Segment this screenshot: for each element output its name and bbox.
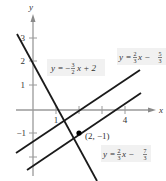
coordinate-graph: y x 3 2 1 −1 1 4 (2, −1) y = − 3 2 — [0, 0, 166, 181]
svg-text:2: 2 — [72, 69, 75, 75]
intersection-point — [76, 130, 81, 135]
svg-text:x −: x − — [121, 149, 134, 159]
equation-label-3: y = 2 3 x − 7 3 — [101, 145, 151, 162]
y-axis: y — [28, 2, 36, 176]
x-axis-label: x — [158, 105, 163, 115]
svg-text:−: − — [65, 63, 70, 73]
svg-text:3: 3 — [72, 62, 75, 68]
svg-text:y: y — [50, 63, 55, 73]
equation-label-1: y = − 3 2 x + 2 — [47, 59, 105, 76]
svg-text:3: 3 — [118, 155, 121, 161]
y-tick-label-1: 1 — [21, 80, 26, 90]
svg-text:=: = — [126, 52, 131, 62]
svg-text:=: = — [110, 149, 115, 159]
svg-text:y: y — [118, 52, 123, 62]
x-axis: x — [16, 105, 163, 115]
line-two-thirds-minus-five-thirds — [16, 70, 140, 153]
svg-text:x + 2: x + 2 — [76, 63, 97, 73]
svg-text:y: y — [102, 149, 107, 159]
x-tick-label-4: 4 — [123, 115, 128, 125]
point-label: (2, −1) — [85, 131, 110, 141]
y-axis-label: y — [28, 2, 33, 12]
svg-text:=: = — [58, 63, 63, 73]
svg-text:5: 5 — [159, 51, 162, 57]
svg-text:2: 2 — [118, 148, 121, 154]
svg-text:x −: x − — [137, 52, 150, 62]
svg-text:3: 3 — [134, 58, 137, 64]
y-axis-arrow-icon — [31, 14, 36, 22]
svg-text:3: 3 — [159, 58, 162, 64]
y-tick-label-2: 2 — [21, 56, 26, 66]
y-tick-label-neg1: −1 — [16, 128, 26, 138]
svg-text:2: 2 — [134, 51, 137, 57]
x-tick-label-1: 1 — [54, 115, 59, 125]
equation-label-2: y = 2 3 x − 5 3 — [117, 48, 166, 65]
x-axis-arrow-icon — [148, 108, 156, 113]
svg-text:7: 7 — [144, 148, 147, 154]
svg-text:3: 3 — [144, 155, 147, 161]
